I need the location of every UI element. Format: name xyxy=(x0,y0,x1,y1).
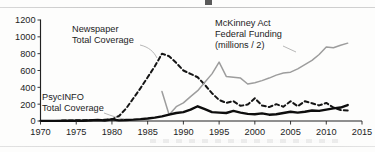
newspaper-label-line2: Total Coverage xyxy=(72,35,134,45)
annotation-mckinney: McKinney Act Federal Funding (millions /… xyxy=(215,18,296,52)
x-tick-label: 2010 xyxy=(316,127,336,137)
y-tick-label: 1200 xyxy=(15,15,35,25)
x-tick-label: 1995 xyxy=(209,127,229,137)
x-tick-label: 1970 xyxy=(30,127,50,137)
annotation-psycinfo: PsycINFO Total Coverage xyxy=(42,92,124,119)
x-tick-label: 1980 xyxy=(102,127,122,137)
chart-figure: 020040060080010001200 197019751980198519… xyxy=(0,0,375,152)
x-tick-label: 2000 xyxy=(245,127,265,137)
y-tick-label: 0 xyxy=(30,116,35,126)
y-tick-label: 200 xyxy=(20,100,35,110)
y-tick-group: 020040060080010001200 xyxy=(15,15,40,126)
y-tick-label: 600 xyxy=(20,66,35,76)
y-tick-label: 800 xyxy=(20,49,35,59)
x-tick-group: 1970197519801985199019952000200520102015 xyxy=(30,121,372,137)
y-tick-label: 1000 xyxy=(15,32,35,42)
mckinney-label-line3: (millions / 2) xyxy=(215,40,265,50)
line-chart-plot: 020040060080010001200 197019751980198519… xyxy=(0,0,375,152)
x-tick-label: 1990 xyxy=(173,127,193,137)
mckinney-leader-line xyxy=(283,46,296,52)
x-tick-label: 1985 xyxy=(137,127,157,137)
mckinney-label-line1: McKinney Act xyxy=(215,18,271,28)
x-tick-label: 2005 xyxy=(280,127,300,137)
mckinney-label-line2: Federal Funding xyxy=(215,29,282,39)
annotation-newspaper: Newspaper Total Coverage xyxy=(72,24,157,58)
newspaper-label-line1: Newspaper xyxy=(72,24,118,34)
newspaper-leader-line xyxy=(140,45,157,58)
x-tick-label: 1975 xyxy=(66,127,86,137)
series-line-mckinney-act-federal-funding-millions-2 xyxy=(162,43,348,115)
psycinfo-label-line2: Total Coverage xyxy=(42,103,104,113)
x-tick-label: 2015 xyxy=(352,127,372,137)
psycinfo-label-line1: PsycINFO xyxy=(42,92,84,102)
y-tick-label: 400 xyxy=(20,83,35,93)
